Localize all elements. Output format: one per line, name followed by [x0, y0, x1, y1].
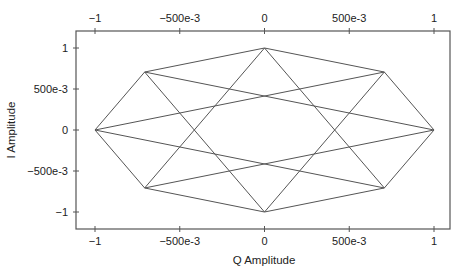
trajectory-segment — [145, 72, 434, 130]
x-tick-label-bottom: 1 — [431, 235, 437, 247]
x-tick-label-bottom: −500e-3 — [159, 235, 200, 247]
trajectory-segment — [265, 72, 385, 212]
x-tick-label-bottom: 0 — [261, 235, 267, 247]
x-tick-label-top: −1 — [89, 12, 102, 24]
constellation-plot: −1−500e-30500e-31 −1−500e-30500e-31 1500… — [0, 0, 461, 272]
y-tick-label: −500e-3 — [27, 165, 68, 177]
trajectory-segment — [145, 130, 434, 188]
y-tick-label: 500e-3 — [34, 83, 68, 95]
x-tick-label-bottom: 500e-3 — [332, 235, 366, 247]
trajectory-segment — [95, 130, 384, 188]
plot-frame — [76, 31, 450, 229]
plot-border — [76, 31, 450, 229]
x-axis-title: Q Amplitude — [233, 254, 296, 266]
y-axis-title: I Amplitude — [5, 102, 17, 159]
x-tick-label-top: −500e-3 — [159, 12, 200, 24]
trajectory-segment — [145, 48, 265, 188]
x-tick-label-top: 0 — [261, 12, 267, 24]
y-axis-left: 1500e-30−500e-3−1 — [27, 42, 79, 218]
y-tick-label: −1 — [55, 206, 68, 218]
y-tick-label: 0 — [62, 124, 68, 136]
x-tick-label-bottom: −1 — [89, 235, 102, 247]
trajectory-segment — [265, 48, 385, 188]
trajectory-segment — [95, 72, 384, 130]
y-tick-label: 1 — [62, 42, 68, 54]
x-tick-label-top: 1 — [431, 12, 437, 24]
trajectory-lines — [95, 48, 434, 212]
x-tick-label-top: 500e-3 — [332, 12, 366, 24]
trajectory-segment — [145, 72, 265, 212]
